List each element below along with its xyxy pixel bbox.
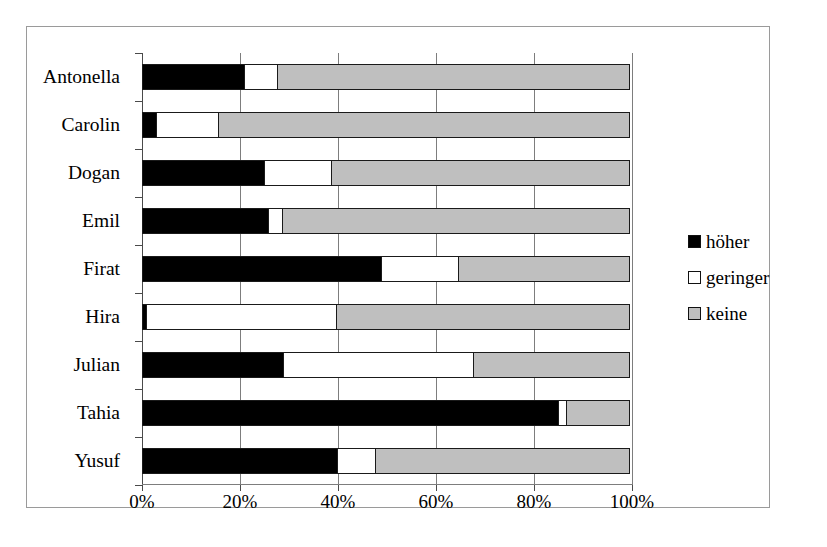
bar-row [142, 197, 632, 245]
stacked-bar[interactable] [142, 400, 632, 426]
bar-segment-keine[interactable] [282, 208, 630, 234]
bar-segment-höher[interactable] [142, 208, 269, 234]
y-axis-tick [135, 53, 142, 54]
bar-row [142, 293, 632, 341]
y-axis-tick [135, 245, 142, 246]
bar-segment-geringer[interactable] [381, 256, 459, 282]
bar-segment-geringer[interactable] [244, 64, 278, 90]
x-axis-tick-labels: 0%20%40%60%80%100% [142, 491, 632, 517]
bar-segment-höher[interactable] [142, 448, 338, 474]
legend-swatch-icon [688, 235, 701, 248]
bar-segment-keine[interactable] [218, 112, 630, 138]
legend-label: geringer [706, 268, 769, 287]
y-axis-tick [135, 341, 142, 342]
bar-row [142, 341, 632, 389]
stacked-bar[interactable] [142, 160, 632, 186]
y-axis-tick [135, 293, 142, 294]
x-axis-tick-label: 0% [129, 491, 154, 513]
bar-row [142, 53, 632, 101]
bar-segment-geringer[interactable] [337, 448, 376, 474]
y-axis-tick [135, 149, 142, 150]
y-axis-label: Julian [27, 341, 129, 389]
chart-figure: AntonellaCarolinDoganEmilFiratHiraJulian… [26, 26, 770, 508]
x-axis-tick-label: 100% [610, 491, 654, 513]
legend-item[interactable]: keine [688, 295, 778, 331]
y-axis-label: Carolin [27, 101, 129, 149]
y-axis-label: Firat [27, 245, 129, 293]
plot-area [142, 53, 632, 485]
stacked-bar[interactable] [142, 352, 632, 378]
y-axis-label: Emil [27, 197, 129, 245]
bar-segment-keine[interactable] [375, 448, 630, 474]
bar-row [142, 437, 632, 485]
bar-segment-geringer[interactable] [156, 112, 220, 138]
bar-segment-keine[interactable] [331, 160, 630, 186]
y-axis-tick [135, 437, 142, 438]
y-axis-tick [135, 101, 142, 102]
bar-segment-keine[interactable] [473, 352, 630, 378]
legend-item[interactable]: geringer [688, 259, 778, 295]
stacked-bars [142, 53, 632, 485]
bar-segment-geringer[interactable] [146, 304, 337, 330]
stacked-bar[interactable] [142, 256, 632, 282]
bar-segment-höher[interactable] [142, 112, 157, 138]
y-axis-label: Dogan [27, 149, 129, 197]
legend-label: höher [706, 232, 749, 251]
legend-swatch-icon [688, 307, 701, 320]
y-axis-tick [135, 197, 142, 198]
y-axis-label: Tahia [27, 389, 129, 437]
bar-segment-geringer[interactable] [264, 160, 333, 186]
y-axis-label: Yusuf [27, 437, 129, 485]
bar-segment-keine[interactable] [566, 400, 630, 426]
stacked-bar[interactable] [142, 304, 632, 330]
bar-segment-geringer[interactable] [283, 352, 474, 378]
legend-label: keine [706, 304, 747, 323]
stacked-bar[interactable] [142, 208, 632, 234]
x-axis-tick-label: 80% [517, 491, 552, 513]
bar-row [142, 389, 632, 437]
bar-row [142, 149, 632, 197]
stacked-bar[interactable] [142, 64, 632, 90]
bar-segment-höher[interactable] [142, 160, 265, 186]
stacked-bar[interactable] [142, 448, 632, 474]
plot-wrapper: AntonellaCarolinDoganEmilFiratHiraJulian… [27, 27, 687, 509]
bar-row [142, 101, 632, 149]
y-axis-tick [135, 389, 142, 390]
x-axis-tick-label: 40% [321, 491, 356, 513]
legend-item[interactable]: höher [688, 223, 778, 259]
y-axis-label: Antonella [27, 53, 129, 101]
stacked-bar[interactable] [142, 112, 632, 138]
bar-segment-höher[interactable] [142, 64, 245, 90]
x-axis-tick-label: 60% [419, 491, 454, 513]
bar-segment-keine[interactable] [458, 256, 630, 282]
chart-legend: höhergeringerkeine [688, 223, 778, 331]
y-axis-label: Hira [27, 293, 129, 341]
bar-segment-höher[interactable] [142, 304, 147, 330]
y-axis-category-labels: AntonellaCarolinDoganEmilFiratHiraJulian… [27, 53, 129, 485]
x-axis-tick-label: 20% [223, 491, 258, 513]
bar-segment-geringer[interactable] [268, 208, 283, 234]
bar-segment-höher[interactable] [142, 400, 559, 426]
bar-segment-keine[interactable] [336, 304, 630, 330]
bar-segment-geringer[interactable] [558, 400, 568, 426]
legend-swatch-icon [688, 271, 701, 284]
x-axis-line [142, 484, 632, 485]
bar-row [142, 245, 632, 293]
bar-segment-höher[interactable] [142, 256, 382, 282]
bar-segment-höher[interactable] [142, 352, 284, 378]
bar-segment-keine[interactable] [277, 64, 630, 90]
